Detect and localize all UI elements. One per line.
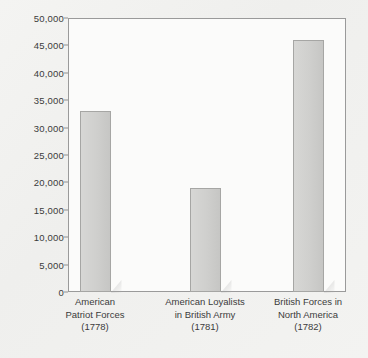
x-axis-label-line: in British Army: [150, 309, 260, 322]
bar-column[interactable]: [80, 18, 111, 292]
x-axis-label-line: American Loyalists: [150, 296, 260, 309]
bar[interactable]: [190, 188, 221, 292]
x-axis-label-line: Patriot Forces: [40, 309, 150, 322]
x-axis-label-line: British Forces in: [253, 296, 363, 309]
y-axis-tick-label: 50,000: [34, 13, 64, 24]
y-axis-tick-label: 25,000: [34, 150, 64, 161]
x-axis-labels: AmericanPatriot Forces(1778)American Loy…: [68, 296, 346, 354]
bar-drop-shadow: [111, 280, 122, 293]
y-axis-tick-label: 15,000: [34, 204, 64, 215]
y-axis-tick-label: 5,000: [39, 259, 64, 270]
y-axis-tick-label: 40,000: [34, 67, 64, 78]
y-axis-tick-label: 10,000: [34, 232, 64, 243]
x-axis-label-line: North America: [253, 309, 363, 322]
bar-drop-shadow: [324, 280, 335, 293]
y-axis: 05,00010,00015,00020,00025,00030,00035,0…: [0, 18, 64, 292]
y-axis-tick-label: 20,000: [34, 177, 64, 188]
x-axis-label-line: American: [40, 296, 150, 309]
x-axis-label-line: (1778): [40, 321, 150, 334]
bar-series: [68, 18, 346, 292]
x-axis-category-label: British Forces inNorth America(1782): [253, 296, 363, 334]
bar-column[interactable]: [190, 18, 221, 292]
bar-column[interactable]: [293, 18, 324, 292]
x-axis-label-line: (1782): [253, 321, 363, 334]
x-axis-category-label: AmericanPatriot Forces(1778): [40, 296, 150, 334]
x-axis-label-line: (1781): [150, 321, 260, 334]
bar[interactable]: [80, 111, 111, 292]
bar-chart: 05,00010,00015,00020,00025,00030,00035,0…: [0, 0, 368, 358]
bar[interactable]: [293, 40, 324, 292]
bar-drop-shadow: [221, 280, 232, 293]
y-axis-tick-label: 45,000: [34, 40, 64, 51]
x-axis-category-label: American Loyalistsin British Army(1781): [150, 296, 260, 334]
y-axis-tick-label: 30,000: [34, 122, 64, 133]
y-axis-tick-label: 35,000: [34, 95, 64, 106]
